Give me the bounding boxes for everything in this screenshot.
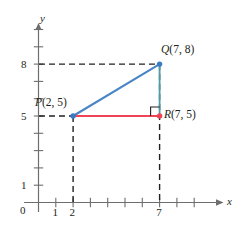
y-tick-label-5: 5 (21, 111, 27, 122)
point-marker-r (157, 113, 162, 118)
figure-canvas (0, 0, 241, 229)
coordinate-plane-figure: y x 0 1 2 7 1 5 8 P(2, 5) Q(7, 8) R(7, 5… (0, 0, 241, 229)
point-label-p: P(2, 5) (35, 97, 67, 109)
y-tick-label-1: 1 (21, 180, 27, 191)
point-label-q-coords: (7, 8) (169, 43, 194, 55)
point-label-p-name: P (35, 96, 42, 108)
point-marker-p (70, 113, 75, 118)
point-marker-q (157, 61, 162, 66)
x-axis-arrowhead (216, 199, 224, 205)
point-label-r: R(7, 5) (164, 109, 196, 121)
y-axis-name: y (40, 13, 45, 24)
x-tick-label-2: 2 (70, 207, 76, 218)
x-tick-label-7: 7 (156, 207, 162, 218)
point-label-q: Q(7, 8) (161, 44, 194, 56)
x-tick-label-1: 1 (53, 207, 59, 218)
point-label-r-coords: (7, 5) (171, 108, 196, 120)
origin-label: 0 (20, 205, 26, 216)
segment-pq (73, 64, 160, 116)
x-axis-name: x (227, 196, 232, 207)
point-label-r-name: R (164, 108, 171, 120)
triangle-segments-group (73, 64, 160, 116)
point-label-p-coords: (2, 5) (42, 96, 67, 108)
guide-lines-group (39, 64, 160, 202)
y-tick-label-8: 8 (21, 59, 27, 70)
